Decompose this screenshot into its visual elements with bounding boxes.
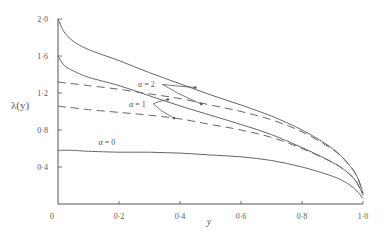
- annotation-label: α = 0: [98, 138, 115, 147]
- solid-curve: [58, 150, 363, 198]
- x-axis-label: y: [206, 216, 212, 227]
- x-tick-label: 0: [50, 212, 54, 221]
- y-tick-label: 0·4: [37, 163, 48, 172]
- data-series: [58, 19, 363, 198]
- y-tick-label: 1·6: [37, 52, 48, 61]
- dashed-curve: [58, 106, 363, 195]
- x-tick-label: 0·4: [175, 212, 186, 221]
- y-tick-label: 2·0: [37, 15, 48, 24]
- arrowhead-icon: [173, 117, 176, 120]
- chart-canvas: 00·20·40·60·81·00·40·81·21·62·0 α = 2α =…: [0, 0, 387, 237]
- y-axis-label: λ(y): [11, 99, 29, 112]
- x-tick-label: 0·8: [297, 212, 308, 221]
- solid-curve: [58, 19, 363, 193]
- y-tick-label: 1·2: [37, 89, 48, 98]
- x-tick-label: 0·2: [114, 212, 125, 221]
- annotation-label: α = 2: [138, 80, 155, 89]
- arrowhead-icon: [167, 98, 170, 101]
- annotation-label: α = 1: [129, 100, 146, 109]
- y-tick-label: 0·8: [37, 126, 48, 135]
- arrowhead-icon: [200, 103, 203, 106]
- axes: 00·20·40·60·81·00·40·81·21·62·0: [37, 15, 368, 221]
- lambda-chart: 00·20·40·60·81·00·40·81·21·62·0 α = 2α =…: [0, 0, 387, 237]
- arrowhead-icon: [194, 86, 197, 89]
- annotations: α = 2α = 1α = 0: [98, 80, 202, 146]
- x-tick-label: 1·0: [358, 212, 369, 221]
- x-tick-label: 0·6: [236, 212, 247, 221]
- solid-curve: [58, 56, 363, 195]
